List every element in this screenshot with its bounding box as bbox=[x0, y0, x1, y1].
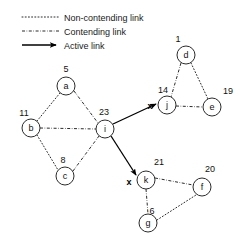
x-marker-near-j: x bbox=[147, 101, 152, 111]
edge-d-j bbox=[171, 63, 181, 97]
node-g-value: 6 bbox=[149, 206, 154, 216]
diagram-page: Non-contending link Contending link Acti… bbox=[0, 0, 243, 245]
edge-b-i bbox=[40, 128, 96, 129]
node-g-label: g bbox=[145, 218, 150, 228]
edge-d-e bbox=[191, 63, 208, 99]
node-k-label: k bbox=[144, 175, 149, 185]
node-c-label: c bbox=[63, 171, 68, 181]
node-f-value: 20 bbox=[205, 164, 215, 174]
edge-a-b bbox=[37, 93, 60, 121]
edge-g-f bbox=[157, 195, 196, 220]
node-a-label: a bbox=[63, 81, 68, 91]
node-b[interactable]: b 11 bbox=[19, 108, 40, 137]
edge-c-i bbox=[73, 136, 99, 171]
node-f[interactable]: f 20 bbox=[193, 164, 215, 196]
node-i-label: i bbox=[104, 124, 106, 134]
node-d-label: d bbox=[183, 50, 188, 60]
node-j-value: 14 bbox=[158, 85, 168, 95]
node-i[interactable]: i 23 bbox=[96, 107, 114, 138]
x-marker-near-k: x bbox=[126, 177, 131, 187]
legend-label-active: Active link bbox=[64, 41, 105, 51]
node-e[interactable]: e 19 bbox=[203, 86, 233, 116]
edge-a-i bbox=[74, 91, 98, 123]
edge-active-i-k bbox=[111, 136, 136, 175]
node-k-value: 21 bbox=[154, 157, 164, 167]
legend-item-active: Active link bbox=[22, 41, 105, 51]
node-k[interactable]: k 21 bbox=[137, 157, 164, 189]
node-d[interactable]: d 1 bbox=[175, 34, 195, 64]
legend-item-contending: Contending link bbox=[22, 27, 127, 37]
node-c[interactable]: c 8 bbox=[56, 155, 74, 185]
node-j-label: j bbox=[165, 100, 168, 110]
node-e-label: e bbox=[209, 102, 214, 112]
legend-label-non-contending: Non-contending link bbox=[64, 13, 144, 23]
legend: Non-contending link Contending link Acti… bbox=[22, 13, 144, 51]
edge-j-e bbox=[176, 106, 203, 107]
node-c-value: 8 bbox=[60, 155, 65, 165]
edge-k-f bbox=[155, 178, 193, 185]
node-layer: a 5 b 11 c 8 i 23 d 1 bbox=[19, 34, 233, 232]
legend-label-contending: Contending link bbox=[64, 27, 127, 37]
node-d-value: 1 bbox=[175, 34, 180, 44]
node-b-label: b bbox=[28, 123, 33, 133]
network-diagram-canvas: Non-contending link Contending link Acti… bbox=[0, 0, 243, 245]
node-i-value: 23 bbox=[99, 107, 109, 117]
edge-b-c bbox=[37, 135, 58, 170]
edge-k-g bbox=[146, 189, 148, 214]
node-e-value: 19 bbox=[223, 86, 233, 96]
node-b-value: 11 bbox=[19, 108, 28, 118]
node-a[interactable]: a 5 bbox=[57, 64, 75, 95]
node-a-value: 5 bbox=[63, 64, 68, 74]
legend-item-non-contending: Non-contending link bbox=[22, 13, 144, 23]
